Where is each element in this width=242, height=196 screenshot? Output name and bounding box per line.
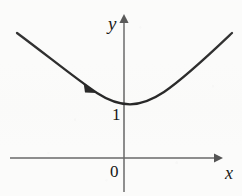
graph-svg [0,0,242,196]
y-axis-label: y [108,14,116,33]
origin-label: 0 [110,163,119,180]
y-intercept-tick-label: 1 [112,106,121,123]
figure-canvas: y x 1 0 [0,0,242,196]
x-axis-arrowhead [214,153,223,162]
y-axis-arrowhead [119,14,128,23]
x-axis-label: x [225,164,233,182]
